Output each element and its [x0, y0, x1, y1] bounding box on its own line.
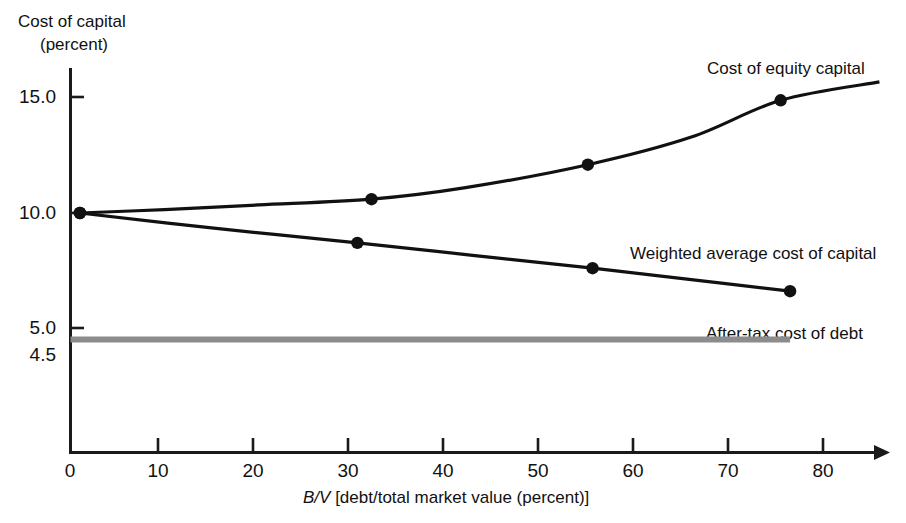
- series-line: [80, 82, 880, 213]
- data-point-marker: [586, 262, 598, 274]
- data-point-marker: [365, 193, 377, 205]
- series-2: [74, 207, 797, 298]
- data-point-marker: [582, 159, 594, 171]
- x-axis-arrow-icon: [874, 445, 890, 460]
- data-point-marker: [74, 207, 86, 219]
- data-point-marker: [784, 285, 796, 297]
- axes-group: [69, 68, 890, 460]
- data-point-marker: [774, 94, 786, 106]
- series-layer: [71, 82, 880, 340]
- chart-figure: Cost of capital (percent) 15.0 10.0 5.0 …: [0, 0, 906, 523]
- series-line: [80, 213, 790, 291]
- chart-canvas: [0, 0, 906, 523]
- series-1: [74, 82, 880, 219]
- data-point-marker: [351, 237, 363, 249]
